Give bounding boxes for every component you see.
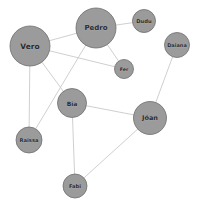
graph-node-joao[interactable]: Jóan: [134, 102, 167, 135]
graph-node-dudu[interactable]: Dudu: [133, 10, 156, 33]
node-label-fabi: Fabi: [69, 183, 81, 189]
node-label-raissa: Raissa: [20, 137, 39, 143]
graph-node-fabi[interactable]: Fabi: [63, 174, 87, 198]
node-label-vero: Vero: [20, 42, 39, 51]
node-label-fer: Fer: [120, 67, 129, 72]
node-label-bia: Bia: [67, 100, 78, 107]
graph-node-daiana[interactable]: Daiana: [165, 33, 190, 58]
node-label-dudu: Dudu: [136, 18, 152, 24]
node-label-daiana: Daiana: [167, 42, 187, 48]
graph-node-bia[interactable]: Bia: [58, 89, 87, 118]
node-layer: VeroPedroDuduDaianaFerBiaJóanRaissaFabi: [10, 8, 190, 198]
node-label-joao: Jóan: [141, 114, 158, 122]
graph-svg: VeroPedroDuduDaianaFerBiaJóanRaissaFabi: [0, 0, 201, 204]
graph-node-fer[interactable]: Fer: [115, 60, 134, 79]
graph-node-raissa[interactable]: Raissa: [16, 127, 42, 153]
graph-node-pedro[interactable]: Pedro: [76, 8, 116, 48]
node-label-pedro: Pedro: [84, 24, 107, 32]
graph-node-vero[interactable]: Vero: [10, 26, 50, 66]
network-graph-canvas: VeroPedroDuduDaianaFerBiaJóanRaissaFabi: [0, 0, 201, 204]
